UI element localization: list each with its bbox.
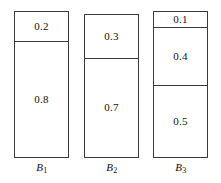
bin-b1-segment-1-label: 0.2 [34, 21, 48, 32]
bin-b1-segment-2-label: 0.8 [34, 94, 48, 105]
bin-b3-segment-2: 0.4 [154, 27, 207, 85]
bin-b2-segment-1-label: 0.3 [104, 31, 118, 42]
bin-b3-segment-2-label: 0.4 [173, 51, 187, 62]
bin-b3-caption-letter: B [175, 161, 182, 173]
bin-b2: 0.3 0.7 [84, 14, 139, 158]
bin-b1-caption: B1 [14, 162, 69, 173]
bin-b1-caption-subscript: 1 [43, 166, 47, 175]
bin-b2-segment-2: 0.7 [85, 58, 138, 157]
bin-b2-segment-1: 0.3 [85, 15, 138, 58]
bin-b3-segment-3-label: 0.5 [173, 116, 187, 127]
bin-b3-caption-subscript: 3 [182, 166, 186, 175]
bin-b3-segment-3: 0.5 [154, 85, 207, 158]
bin-b2-caption-subscript: 2 [113, 166, 117, 175]
bin-b2-segment-2-label: 0.7 [104, 102, 118, 113]
bin-b1: 0.2 0.8 [14, 11, 69, 158]
bin-b3-caption: B3 [153, 162, 208, 173]
bin-b3-segment-1-label: 0.1 [173, 14, 187, 25]
bin-b2-caption-letter: B [106, 161, 113, 173]
bin-b1-caption-letter: B [36, 161, 43, 173]
bin-packing-figure: 0.2 0.8 B1 0.3 0.7 B2 0.1 0.4 0.5 B3 [0, 0, 221, 183]
bin-b2-caption: B2 [84, 162, 139, 173]
bin-b1-segment-2: 0.8 [15, 41, 68, 157]
bin-b3-segment-1: 0.1 [154, 12, 207, 27]
bin-b3: 0.1 0.4 0.5 [153, 11, 208, 158]
bin-b1-segment-1: 0.2 [15, 12, 68, 41]
